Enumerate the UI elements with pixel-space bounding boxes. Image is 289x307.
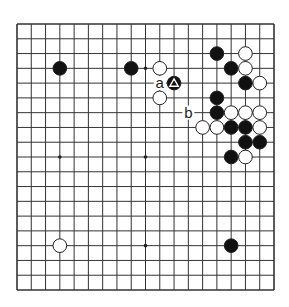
black-stone	[53, 61, 67, 75]
black-stone	[167, 76, 181, 90]
star-point	[144, 67, 148, 71]
star-point	[144, 244, 148, 248]
white-stone	[196, 121, 210, 135]
black-stone	[224, 150, 238, 164]
white-stone	[53, 239, 67, 253]
black-stone	[210, 106, 224, 120]
go-board: ab	[0, 0, 289, 307]
white-stone	[224, 106, 238, 120]
white-stone	[210, 121, 224, 135]
black-stone	[210, 91, 224, 105]
black-stone	[224, 121, 238, 135]
point-label-b: b	[182, 104, 194, 121]
black-stone	[224, 239, 238, 253]
black-stone	[239, 76, 253, 90]
point-label-a: a	[154, 74, 166, 91]
black-stone	[210, 47, 224, 61]
black-stone	[124, 61, 138, 75]
white-stone	[153, 61, 167, 75]
black-stone	[224, 61, 238, 75]
star-point	[144, 155, 148, 159]
white-stone	[239, 61, 253, 75]
svg-text:b: b	[184, 104, 192, 121]
white-stone	[253, 76, 267, 90]
white-stone	[239, 150, 253, 164]
black-stone	[253, 135, 267, 149]
white-stone	[153, 91, 167, 105]
white-stone	[239, 47, 253, 61]
black-stone	[239, 135, 253, 149]
white-stone	[253, 106, 267, 120]
star-point	[58, 155, 62, 159]
white-stone	[239, 106, 253, 120]
white-stone	[253, 121, 267, 135]
svg-text:a: a	[156, 74, 165, 91]
black-stone	[239, 121, 253, 135]
